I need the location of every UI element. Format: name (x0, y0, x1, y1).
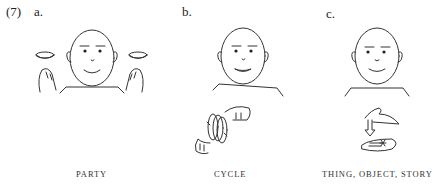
signer-figure-c (345, 28, 409, 96)
signer-figure-a (60, 30, 124, 93)
gloss-cycle: CYCLE (214, 169, 246, 179)
gloss-thing-object-story: THING, OBJECT, STORY (322, 169, 433, 179)
signer-figure-b (213, 28, 283, 96)
hands-c (362, 108, 399, 151)
sign-illustrations (0, 0, 434, 189)
gloss-party: PARTY (76, 169, 107, 179)
hand-right-a (126, 52, 147, 92)
hand-left-a (36, 52, 56, 92)
cycle-hands-b (195, 107, 250, 154)
